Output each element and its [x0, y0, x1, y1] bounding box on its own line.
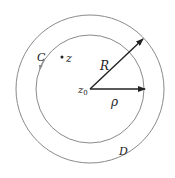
- label-C: C: [37, 51, 46, 64]
- radius-R-arrow: [90, 39, 143, 89]
- point-z-dot: [61, 56, 64, 59]
- label-rho: ρ: [110, 95, 118, 109]
- label-z0: z0: [77, 84, 88, 97]
- annulus-diagram: C z R z0 ρ D: [0, 0, 175, 178]
- diagram-svg: C z R z0 ρ D: [0, 0, 175, 178]
- label-D: D: [118, 145, 128, 158]
- label-z0-sub: 0: [83, 89, 87, 97]
- label-R: R: [99, 59, 109, 73]
- label-z: z: [65, 52, 72, 65]
